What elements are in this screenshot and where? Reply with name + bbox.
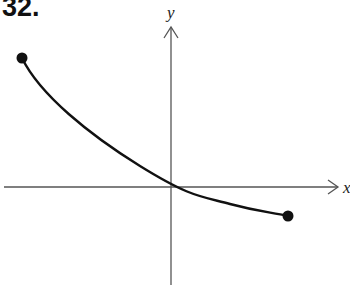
right-endpoint-dot (283, 211, 294, 222)
x-axis-label: x (342, 178, 350, 197)
left-endpoint-dot (17, 53, 28, 64)
function-curve (22, 58, 288, 216)
graph: x y (0, 0, 350, 299)
y-axis-label: y (165, 3, 175, 22)
